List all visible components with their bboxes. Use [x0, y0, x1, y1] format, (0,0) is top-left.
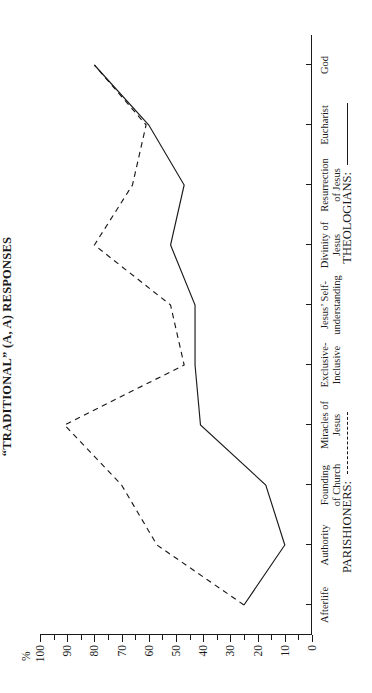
value-tick-label: 30: [224, 645, 236, 657]
value-tick-label: 80: [88, 645, 100, 657]
category-tick-label: Founding of Church: [319, 464, 343, 506]
rotated-chart-canvas: “TRADITIONAL” (A, A) RESPONSES % 0102030…: [0, 0, 372, 693]
category-tick-label: Divinity of Jesus: [319, 222, 343, 268]
chart-title: “TRADITIONAL” (A, A) RESPONSES: [0, 0, 15, 693]
series-lines: [40, 35, 312, 635]
value-tick: [312, 635, 313, 642]
value-tick-label: 20: [252, 645, 264, 657]
legend-label-theologians: THEOLOGIANS:: [340, 172, 355, 264]
plot-area: % 0102030405060708090100 AfterlifeAuthor…: [40, 35, 312, 635]
series-parishioners-line: [64, 65, 244, 605]
chart-figure: “TRADITIONAL” (A, A) RESPONSES % 0102030…: [0, 0, 372, 693]
value-tick: [230, 635, 231, 642]
value-tick: [217, 635, 218, 640]
value-tick-label: 50: [170, 645, 182, 657]
value-tick: [122, 635, 123, 642]
category-tick-label: Afterlife: [319, 587, 331, 623]
value-tick: [149, 635, 150, 642]
value-tick: [298, 635, 299, 640]
chart-legend: PARISHIONERS: THEOLOGIANS:: [340, 103, 355, 573]
value-tick-label: 0: [306, 645, 318, 651]
value-tick-label: 100: [34, 645, 46, 662]
value-tick: [162, 635, 163, 640]
category-tick-label: Resurrection of Jesus: [319, 158, 343, 212]
value-tick-label: 90: [61, 645, 73, 657]
value-tick-label: 60: [143, 645, 155, 657]
value-tick-label: 10: [279, 645, 291, 657]
legend-item-parishioners: PARISHIONERS:: [340, 412, 355, 573]
value-tick-label: 70: [116, 645, 128, 657]
value-tick: [94, 635, 95, 642]
legend-label-parishioners: PARISHIONERS:: [340, 481, 355, 573]
series-theologians-line: [94, 65, 284, 605]
category-tick-label: God: [319, 56, 331, 74]
value-tick: [40, 635, 41, 642]
category-tick-label: Miracles of Jesus: [319, 401, 343, 449]
value-tick: [203, 635, 204, 642]
value-tick: [285, 635, 286, 642]
value-tick: [258, 635, 259, 642]
value-tick: [54, 635, 55, 640]
value-tick: [81, 635, 82, 640]
value-axis-unit-label: %: [20, 651, 32, 661]
value-tick: [67, 635, 68, 642]
value-tick: [176, 635, 177, 642]
value-tick: [244, 635, 245, 640]
legend-swatch-dashed: [347, 412, 348, 474]
category-tick-label: Authority: [319, 525, 331, 566]
legend-item-theologians: THEOLOGIANS:: [340, 103, 355, 264]
category-tick-label: Exclusive- Inclusive: [319, 343, 343, 388]
category-tick-label: Jesus’ Self- understanding: [319, 275, 343, 335]
value-tick: [135, 635, 136, 640]
value-tick: [190, 635, 191, 640]
legend-swatch-solid: [347, 103, 348, 165]
value-tick: [271, 635, 272, 640]
value-tick: [108, 635, 109, 640]
category-tick-label: Eucharist: [319, 105, 331, 145]
value-tick-label: 40: [197, 645, 209, 657]
